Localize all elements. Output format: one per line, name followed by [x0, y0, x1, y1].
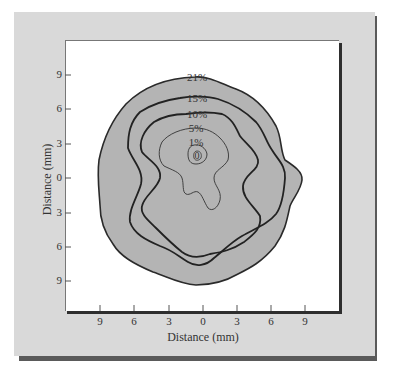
- contour-label-1: 1%: [189, 137, 204, 148]
- contour-label-15: 15%: [187, 93, 207, 104]
- y-axis-title: Distance (mm): [40, 130, 55, 230]
- contour-label-21: 21%: [187, 72, 207, 83]
- x-axis-ticks: [100, 305, 305, 311]
- x-tick-label: 6: [264, 316, 278, 327]
- x-tick-label: 9: [93, 316, 107, 327]
- y-axis-ticks: [65, 75, 71, 281]
- x-axis-title: Distance (mm): [153, 330, 253, 345]
- y-tick-label: 6: [48, 103, 62, 114]
- y-tick-label: 9: [48, 275, 62, 286]
- x-tick-label: 0: [196, 316, 210, 327]
- contour-label-0: 0: [195, 151, 200, 161]
- x-tick-label: 9: [298, 316, 312, 327]
- y-tick-label: 9: [48, 69, 62, 80]
- x-tick-label: 3: [162, 316, 176, 327]
- y-tick-label: 6: [48, 241, 62, 252]
- contour-label-5: 5%: [189, 123, 204, 134]
- x-tick-label: 6: [127, 316, 141, 327]
- x-tick-label: 3: [230, 316, 244, 327]
- contour-label-10: 10%: [187, 109, 207, 120]
